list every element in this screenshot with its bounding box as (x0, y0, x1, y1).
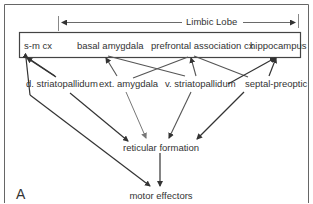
outer-frame (5, 5, 309, 204)
edge-smcx-to-motor (26, 58, 30, 95)
node-motor-effectors: motor effectors (129, 190, 192, 201)
node-prefrontal-association-cx: prefrontal association cx (151, 40, 253, 51)
node-basal-amygdala: basal amygdala (77, 40, 144, 51)
diagram-canvas: s-m cx basal amygdala prefrontal associa… (0, 0, 313, 203)
node-smcx: s-m cx (24, 40, 52, 51)
diagram-lines (0, 0, 313, 203)
edge-dstriato-to-smcx (27, 58, 56, 77)
node-septal-preoptic: septal-preoptic (245, 78, 307, 89)
node-reticular-formation: reticular formation (123, 142, 199, 153)
edge-extamyg-to-basal (106, 58, 117, 76)
edge-dstriato-to-reticular (70, 93, 128, 141)
edge-pref-to-septal (194, 56, 248, 77)
node-v-striatopallidum: v. striatopallidum (165, 78, 236, 89)
edge-extamyg-to-reticular (126, 92, 146, 138)
edge-vstriato-to-pref (191, 58, 196, 76)
edge-septal-to-reticular (197, 92, 244, 139)
node-hippocampus: hippocampus (250, 40, 307, 51)
node-d-striatopallidum: d. striatopallidum (26, 78, 98, 89)
limbic-lobe-label: Limbic Lobe (186, 16, 237, 27)
panel-label: A (16, 187, 25, 201)
node-ext-amygdala: ext. amygdala (99, 78, 158, 89)
edge-vstriato-to-reticular (169, 92, 191, 138)
edge-smcx-to-motor-2 (30, 95, 150, 186)
